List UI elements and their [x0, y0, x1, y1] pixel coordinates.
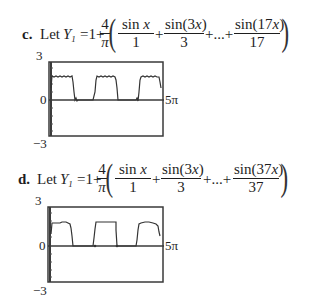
fourier-curve [51, 222, 160, 246]
graph-d [0, 0, 310, 305]
plot-frame [48, 207, 163, 282]
